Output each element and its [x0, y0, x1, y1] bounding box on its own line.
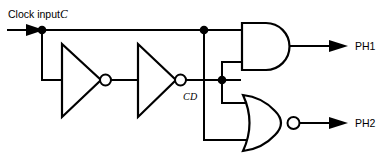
- inverter-1-icon: [62, 44, 101, 117]
- output-ph1-label: PH1: [355, 40, 376, 52]
- clock-input-label: Clock input: [8, 8, 60, 20]
- junction-clock-nor: [200, 26, 209, 35]
- junction-clock-input: [38, 26, 47, 35]
- output-arrow-ph2-icon: [329, 117, 348, 129]
- output-arrow-ph1-icon: [329, 40, 348, 52]
- circuit-schematic: Clock input C CD PH1 PH2: [0, 0, 385, 164]
- circuit-diagram-canvas: Clock input C CD PH1 PH2: [0, 0, 385, 164]
- cd-signal-label: CD: [183, 91, 198, 102]
- clock-signal-label: C: [60, 8, 68, 20]
- nor-gate-bubble-icon: [288, 117, 300, 129]
- inverter-2-bubble-icon: [175, 75, 186, 86]
- wire-clock-to-inverter1: [42, 30, 62, 80]
- and-gate-icon: [242, 23, 290, 70]
- inverter-1-bubble-icon: [100, 75, 111, 86]
- output-ph2-label: PH2: [355, 117, 376, 129]
- nor-gate-icon: [243, 95, 281, 151]
- junction-cd: [218, 76, 227, 85]
- inverter-2-icon: [138, 44, 176, 117]
